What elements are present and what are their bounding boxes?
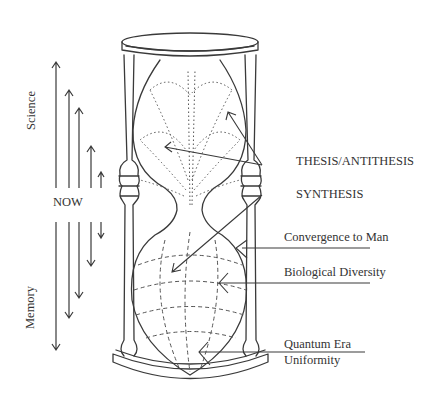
memory-arrow-2	[65, 222, 73, 318]
biological-diversity-label: Biological Diversity	[284, 266, 386, 279]
quantum-era-label: Quantum Era	[284, 338, 351, 351]
convergence-label: Convergence to Man	[284, 231, 389, 244]
glass-outline	[131, 60, 246, 375]
science-arrow-4	[87, 146, 95, 188]
synthesis-pointer	[172, 195, 262, 272]
hourglass-top-cap	[122, 33, 258, 56]
memory-arrow-3	[75, 222, 83, 298]
science-arrow-5	[98, 172, 104, 188]
thesis-pointer-right	[226, 112, 262, 165]
left-pillar	[119, 55, 139, 356]
science-arrow-3	[75, 108, 83, 188]
now-label: NOW	[53, 196, 83, 209]
thesis-antithesis-label: THESIS/ANTITHESIS	[296, 155, 414, 168]
memory-arrow-1	[52, 222, 60, 350]
memory-label: Memory	[23, 282, 38, 334]
memory-arrow-4	[87, 222, 95, 266]
memory-arrow-5	[98, 222, 104, 238]
science-arrow-1	[52, 62, 60, 188]
uniformity-label: Uniformity	[284, 354, 340, 367]
science-arrow-2	[65, 90, 73, 188]
upper-bulb-pattern	[140, 70, 240, 205]
synthesis-label: SYNTHESIS	[296, 188, 363, 201]
lower-bulb-pattern	[134, 232, 246, 372]
science-label: Science	[24, 86, 39, 136]
